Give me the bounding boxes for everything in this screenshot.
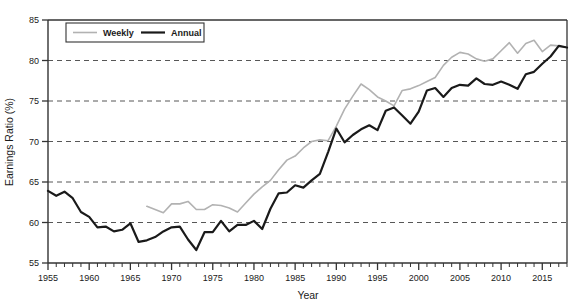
x-tick-label: 1965 bbox=[120, 273, 140, 283]
chart-legend: Weekly Annual bbox=[66, 23, 204, 42]
x-tick-label: 1995 bbox=[368, 273, 388, 283]
x-tick-label: 1975 bbox=[203, 273, 223, 283]
y-tick-label: 55 bbox=[29, 258, 39, 268]
y-tick-label: 75 bbox=[29, 96, 39, 106]
y-tick-label: 65 bbox=[29, 177, 39, 187]
x-tick-label: 1980 bbox=[244, 273, 264, 283]
series-line-annual bbox=[48, 46, 567, 250]
y-tick-label: 85 bbox=[29, 15, 39, 25]
data-series bbox=[48, 40, 567, 250]
x-tick-label: 1960 bbox=[79, 273, 99, 283]
chart-canvas: 55606570758085 1955196019651970197519801… bbox=[0, 0, 583, 305]
series-line-weekly bbox=[147, 40, 567, 213]
y-axis-label: Earnings Ratio (%) bbox=[3, 98, 15, 186]
y-tick-label: 80 bbox=[29, 56, 39, 66]
x-tick-label: 2005 bbox=[450, 273, 470, 283]
x-tick-label: 1985 bbox=[285, 273, 305, 283]
x-axis-label: Year bbox=[297, 289, 319, 301]
y-axis-ticks: 55606570758085 bbox=[29, 15, 48, 268]
y-tick-label: 70 bbox=[29, 137, 39, 147]
legend-label-annual: Annual bbox=[171, 28, 202, 38]
x-tick-label: 1970 bbox=[162, 273, 182, 283]
y-tick-label: 60 bbox=[29, 218, 39, 228]
x-tick-label: 2010 bbox=[491, 273, 511, 283]
x-tick-label: 1990 bbox=[326, 273, 346, 283]
x-tick-label: 2000 bbox=[409, 273, 429, 283]
earnings-ratio-chart: 55606570758085 1955196019651970197519801… bbox=[0, 0, 583, 305]
x-tick-label: 1955 bbox=[38, 273, 58, 283]
x-axis-ticks: 1955196019651970197519801985199019952000… bbox=[38, 263, 567, 283]
x-tick-label: 2015 bbox=[532, 273, 552, 283]
legend-label-weekly: Weekly bbox=[103, 28, 134, 38]
